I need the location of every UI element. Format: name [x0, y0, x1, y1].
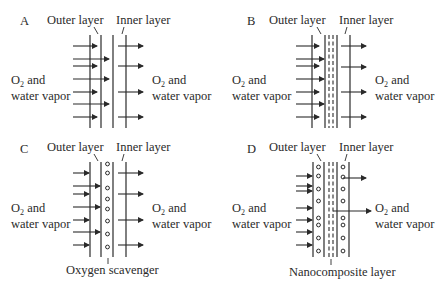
- inner-layer-leader: [122, 27, 124, 34]
- incoming-arrows: [73, 46, 109, 117]
- inner-layer-leader: [345, 27, 347, 34]
- inner-layer-label: Inner layer: [116, 140, 171, 154]
- right-gas-label-line2: water vapor: [375, 89, 435, 103]
- outer-layer-label: Outer layer: [269, 13, 326, 27]
- left-gas-label-line2: water vapor: [232, 89, 292, 103]
- left-gas-label-line2: water vapor: [11, 217, 71, 231]
- outgoing-arrows: [333, 178, 371, 211]
- left-gas-label-line2: water vapor: [11, 89, 71, 103]
- outer-layer-leader: [94, 27, 98, 34]
- panel-letter: D: [247, 142, 256, 156]
- inner-layer-leader: [345, 154, 347, 161]
- right-gas-label: O2 and: [152, 201, 187, 217]
- left-gas-label: O2 and: [11, 73, 46, 89]
- left-gas-label: O2 and: [11, 201, 46, 217]
- right-gas-label: O2 and: [375, 201, 410, 217]
- outer-layer-label: Outer layer: [269, 140, 326, 154]
- panel-b: B Outer layer Inner layer: [232, 13, 435, 128]
- right-gas-label: O2 and: [152, 73, 187, 89]
- inner-layer-label: Inner layer: [116, 13, 171, 27]
- outer-layer-leader: [317, 27, 321, 34]
- incoming-arrows: [73, 173, 100, 245]
- panel-letter: B: [247, 14, 255, 28]
- packaging-layers-diagram: A Outer layer Inner layer O2 and wat: [0, 0, 446, 294]
- outer-layer-particles: [317, 165, 321, 253]
- left-gas-label-line2: water vapor: [232, 217, 292, 231]
- right-gas-label-line2: water vapor: [152, 89, 212, 103]
- right-gas-label: O2 and: [375, 73, 410, 89]
- right-gas-label-line2: water vapor: [152, 217, 212, 231]
- panel-c: C Outer layer Inner layer: [11, 140, 212, 277]
- outgoing-arrows: [118, 46, 143, 117]
- incoming-arrows: [296, 176, 312, 245]
- outer-layer-leader: [317, 154, 321, 161]
- outer-layer-label: Outer layer: [47, 13, 104, 27]
- oxygen-scavenger-particles: [106, 162, 110, 249]
- outer-layer-leader: [94, 154, 98, 161]
- outgoing-arrows: [118, 173, 143, 245]
- left-gas-label: O2 and: [232, 201, 267, 217]
- inner-layer-leader: [122, 154, 124, 161]
- outgoing-arrows: [341, 46, 366, 117]
- incoming-arrows: [296, 46, 324, 117]
- inner-layer-label: Inner layer: [339, 140, 394, 154]
- panel-letter: A: [20, 14, 29, 28]
- panel-letter: C: [20, 142, 28, 156]
- nanocomposite-layer-label: Nanocomposite layer: [289, 265, 396, 279]
- right-gas-label-line2: water vapor: [375, 217, 435, 231]
- left-gas-label: O2 and: [232, 73, 267, 89]
- oxygen-scavenger-label: Oxygen scavenger: [66, 263, 160, 277]
- barrier-walls: [312, 35, 350, 128]
- barrier-walls: [90, 35, 126, 128]
- panel-a: A Outer layer Inner layer O2 and wat: [11, 13, 212, 128]
- inner-layer-label: Inner layer: [339, 13, 394, 27]
- outer-layer-label: Outer layer: [47, 140, 104, 154]
- panel-d: D Outer layer Inner layer: [232, 140, 435, 279]
